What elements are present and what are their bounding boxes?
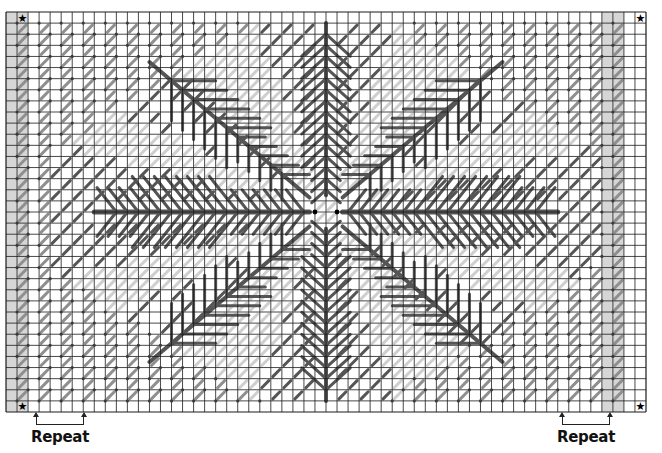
diagonal-stitch (218, 47, 225, 54)
diagonal-stitch (560, 136, 567, 143)
diagonal-stitch (240, 47, 247, 54)
diagonal-stitch (140, 281, 147, 288)
diagonal-stitch (273, 92, 280, 99)
stitch-node (26, 388, 29, 391)
diagonal-stitch (107, 58, 114, 65)
diagonal-stitch (262, 58, 269, 65)
center-dot (313, 210, 318, 215)
stitch-node (600, 144, 603, 147)
stitch-node (225, 388, 228, 391)
stitch-node (567, 110, 570, 113)
diagonal-stitch (527, 325, 534, 332)
diagonal-stitch (527, 314, 534, 321)
diagonal-stitch (107, 270, 114, 277)
diagonal-stitch (438, 92, 445, 99)
diagonal-stitch (339, 36, 346, 43)
diagonal-stitch (85, 81, 92, 88)
diagonal-stitch (262, 70, 269, 77)
diagonal-stitch (107, 136, 114, 143)
diagonal-stitch (218, 247, 225, 254)
diagonal-stitch (416, 25, 423, 32)
diagonal-stitch (527, 114, 534, 121)
diagonal-stitch (571, 270, 578, 277)
stitch-node (104, 377, 107, 380)
diagonal-stitch (482, 392, 489, 399)
diagonal-stitch (107, 158, 114, 165)
diagonal-stitch (516, 258, 523, 265)
diagonal-stitch (449, 358, 456, 365)
diagonal-stitch (494, 270, 501, 277)
diagonal-stitch (240, 247, 247, 254)
diagonal-stitch (41, 392, 48, 399)
diagonal-stitch (494, 147, 501, 154)
stitch-node (26, 299, 29, 302)
stitch-node (600, 388, 603, 391)
stitch-node (424, 388, 427, 391)
diagonal-stitch (273, 58, 280, 65)
diagonal-stitch (427, 81, 434, 88)
diagonal-stitch (593, 281, 600, 288)
stitch-node (170, 66, 173, 69)
stitch-node (556, 366, 559, 369)
diagonal-stitch (196, 358, 203, 365)
stitch-node (600, 322, 603, 325)
diagonal-stitch (151, 25, 158, 32)
diagonal-stitch (185, 258, 192, 265)
stitch-node (93, 299, 96, 302)
stitch-node (567, 333, 570, 336)
diagonal-stitch (229, 247, 236, 254)
diagonal-stitch (449, 270, 456, 277)
diagonal-stitch (593, 370, 600, 377)
stitch-node (15, 288, 18, 291)
diagonal-stitch (96, 292, 103, 299)
diagonal-stitch (41, 303, 48, 310)
diagonal-stitch (460, 70, 467, 77)
diagonal-stitch (107, 125, 114, 132)
diagonal-stitch (549, 314, 556, 321)
diagonal-stitch (372, 114, 379, 121)
stitch-node (148, 66, 151, 69)
diagonal-stitch (284, 270, 291, 277)
stitch-node (523, 310, 526, 313)
diagonal-stitch (471, 136, 478, 143)
stitch-node (38, 22, 41, 25)
diagonal-stitch (218, 158, 225, 165)
diagonal-stitch (262, 336, 269, 343)
diagonal-stitch (427, 247, 434, 254)
stitch-node (567, 355, 570, 358)
diagonal-stitch (516, 292, 523, 299)
diagonal-stitch (416, 136, 423, 143)
stitch-node (578, 33, 581, 36)
diagonal-stitch (107, 370, 114, 377)
diagonal-stitch (185, 303, 192, 310)
diagonal-stitch (63, 158, 70, 165)
diagonal-stitch (174, 25, 181, 32)
diagonal-stitch (482, 36, 489, 43)
diagonal-stitch (63, 47, 70, 54)
stitch-node (490, 33, 493, 36)
stitch-node (611, 66, 614, 69)
diagonal-stitch (162, 325, 169, 332)
stitch-node (600, 344, 603, 347)
diagonal-stitch (560, 270, 567, 277)
diagonal-stitch (482, 136, 489, 143)
diagonal-stitch (262, 92, 269, 99)
diagonal-stitch (405, 358, 412, 365)
diagonal-stitch (571, 36, 578, 43)
diagonal-stitch (251, 36, 258, 43)
diagonal-stitch (251, 358, 258, 365)
diagonal-stitch (372, 103, 379, 110)
stitch-node (468, 55, 471, 58)
diagonal-stitch (262, 381, 269, 388)
diagonal-stitch (63, 292, 70, 299)
stitch-node (611, 333, 614, 336)
diagonal-stitch (372, 303, 379, 310)
diagonal-stitch (505, 281, 512, 288)
stitch-node (15, 310, 18, 313)
stitch-node (104, 333, 107, 336)
diagonal-stitch (41, 381, 48, 388)
diagonal-stitch (262, 314, 269, 321)
stitch-node (26, 55, 29, 58)
stitch-node (545, 110, 548, 113)
diagonal-stitch (129, 136, 136, 143)
